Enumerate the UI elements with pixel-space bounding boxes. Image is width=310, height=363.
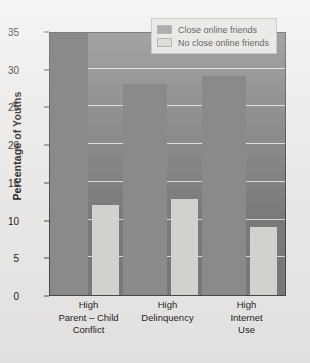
- x-axis-category-label: HighDelinquency: [128, 299, 207, 337]
- legend-item: No close online friends: [157, 36, 269, 49]
- y-tick-label: 15: [0, 177, 19, 188]
- x-axis-label-line: Delinquency: [128, 312, 207, 325]
- x-axis-label-line: High: [207, 299, 286, 312]
- bar: [92, 205, 119, 296]
- legend-label: No close online friends: [178, 38, 269, 48]
- x-axis-label-line: Use: [207, 324, 286, 337]
- bar: [123, 84, 167, 295]
- bar: [49, 32, 88, 295]
- x-axis-category-label: HighParent – ChildConflict: [49, 299, 128, 337]
- x-axis-labels: HighParent – ChildConflictHighDelinquenc…: [49, 299, 286, 337]
- y-tick-label: 30: [0, 64, 19, 75]
- x-axis-label-line: Internet: [207, 312, 286, 325]
- x-axis-category-label: HighInternetUse: [207, 299, 286, 337]
- x-axis-label-line: Conflict: [49, 324, 128, 337]
- chart-legend: Close online friendsNo close online frie…: [151, 18, 277, 54]
- x-axis-label-line: High: [49, 299, 128, 312]
- y-tick-label: 25: [0, 102, 19, 113]
- y-tick-label: 20: [0, 140, 19, 151]
- x-axis-label-line: High: [128, 299, 207, 312]
- y-tick-label: 5: [0, 253, 19, 264]
- bar: [171, 199, 198, 295]
- legend-item: Close online friends: [157, 23, 269, 36]
- x-axis-label-line: Parent – Child: [49, 312, 128, 325]
- bar: [250, 227, 277, 295]
- bar: [202, 76, 246, 295]
- plot-area: [49, 32, 286, 296]
- legend-swatch-icon: [157, 25, 172, 34]
- y-tick-label: 10: [0, 215, 19, 226]
- y-tick-label: 35: [0, 27, 19, 38]
- legend-label: Close online friends: [178, 25, 257, 35]
- chart-figure: Percentage of Youths 05101520253035 High…: [0, 0, 310, 363]
- legend-swatch-icon: [157, 38, 172, 47]
- y-tick-label: 0: [0, 291, 19, 302]
